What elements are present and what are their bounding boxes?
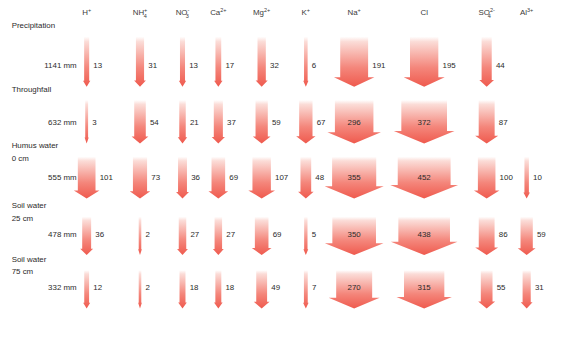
- flux-value-Na-humus-water: 355: [348, 173, 362, 182]
- flux-arrow-SO4-soil-water-75: [478, 270, 495, 308]
- ion-header-SO4: SO2-4: [479, 7, 495, 20]
- flux-arrow-SO4-humus-water: [474, 157, 499, 199]
- flux-value-SO4-precipitation: 44: [496, 61, 505, 70]
- flux-value-H-precipitation: 13: [93, 61, 102, 70]
- layer-name-soil-water-25: Soil water: [12, 201, 47, 210]
- arrow-flows: [74, 37, 536, 309]
- flux-arrow-K-precipitation: [303, 37, 308, 87]
- layer-water-flux-precipitation: 1141 mm: [44, 61, 77, 70]
- flux-arrow-Ca-humus-water: [208, 157, 228, 199]
- ion-header-Mg: Mg2+: [253, 7, 270, 17]
- flux-value-NO3-precipitation: 13: [189, 61, 198, 70]
- flux-arrow-NO3-throughfall: [178, 100, 187, 143]
- flux-arrow-Mg-throughfall: [253, 100, 271, 143]
- flux-value-SO4-soil-water-75: 55: [497, 283, 506, 292]
- flux-value-Mg-precipitation: 32: [270, 61, 279, 70]
- flux-arrow-SO4-soil-water-25: [475, 217, 498, 255]
- flux-value-NH4-soil-water-25: 2: [145, 230, 149, 239]
- flux-value-Ca-humus-water: 69: [229, 173, 238, 182]
- flux-value-Al-soil-water-75: 31: [535, 283, 544, 292]
- flux-value-SO4-humus-water: 100: [500, 173, 514, 182]
- flux-value-Mg-humus-water: 107: [275, 173, 288, 182]
- flux-arrow-K-soil-water-75: [303, 270, 309, 308]
- ion-flux-diagram: H+NH+4NO-3Ca2+Mg2+K+Na+ClSO2-4Al3+Precip…: [0, 0, 570, 351]
- flux-arrow-Al-humus-water: [523, 157, 529, 199]
- flux-arrow-K-soil-water-25: [303, 217, 308, 255]
- flux-value-NH4-soil-water-75: 2: [145, 283, 149, 292]
- flux-arrow-Mg-humus-water: [248, 157, 275, 199]
- flux-value-Cl-soil-water-25: 438: [418, 230, 432, 239]
- flux-value-Cl-precipitation: 195: [442, 61, 456, 70]
- ion-header-H: H+: [82, 7, 91, 17]
- flux-arrow-K-throughfall: [296, 100, 315, 143]
- flux-arrow-NH4-humus-water: [130, 157, 151, 199]
- flux-value-NO3-soil-water-25: 27: [190, 230, 199, 239]
- flux-value-Na-precipitation: 191: [372, 61, 386, 70]
- flux-value-Cl-soil-water-75: 315: [418, 283, 432, 292]
- flux-value-H-humus-water: 101: [100, 173, 114, 182]
- ion-header-Ca: Ca2+: [210, 7, 226, 17]
- flux-arrow-SO4-throughfall: [475, 100, 498, 143]
- flux-value-Na-soil-water-25: 350: [348, 230, 362, 239]
- flux-value-Ca-throughfall: 37: [227, 118, 236, 127]
- flux-arrow-Mg-soil-water-25: [252, 217, 272, 255]
- flux-arrow-NO3-soil-water-25: [177, 217, 188, 255]
- flux-value-Mg-soil-water-25: 69: [273, 230, 282, 239]
- flux-arrow-K-humus-water: [298, 157, 314, 199]
- flux-value-Cl-humus-water: 452: [418, 173, 431, 182]
- flux-value-NH4-throughfall: 54: [150, 118, 159, 127]
- flux-arrow-NH4-soil-water-75: [138, 270, 142, 308]
- flux-value-H-soil-water-25: 36: [95, 230, 104, 239]
- layer-water-flux-throughfall: 632 mm: [48, 118, 77, 127]
- flux-arrow-Na-precipitation: [334, 37, 374, 87]
- layer-name-humus-water: Humus water: [12, 141, 59, 150]
- flux-value-K-soil-water-25: 5: [312, 230, 317, 239]
- flux-value-NH4-precipitation: 31: [148, 61, 157, 70]
- layer-water-flux-soil-water-75: 332 mm: [48, 283, 77, 292]
- flux-value-NO3-soil-water-75: 18: [190, 283, 199, 292]
- flux-value-H-throughfall: 3: [92, 118, 97, 127]
- flux-value-Na-throughfall: 296: [348, 118, 362, 127]
- flux-arrow-NH4-soil-water-25: [138, 217, 142, 255]
- ion-header-NH4: NH+4: [133, 7, 148, 20]
- flux-arrow-Ca-throughfall: [212, 100, 225, 143]
- ion-header-NO3: NO-3: [176, 7, 190, 20]
- layer-name-precipitation: Precipitation: [12, 21, 56, 30]
- flux-value-K-precipitation: 6: [312, 61, 317, 70]
- flux-arrow-H-throughfall: [85, 100, 89, 143]
- flux-value-NO3-throughfall: 21: [190, 118, 199, 127]
- layer-water-flux-humus-water: 555 mm: [48, 173, 77, 182]
- flux-arrow-Al-soil-water-75: [521, 270, 533, 308]
- flux-value-NO3-humus-water: 36: [191, 173, 200, 182]
- flux-diagram-canvas: H+NH+4NO-3Ca2+Mg2+K+Na+ClSO2-4Al3+Precip…: [0, 0, 570, 351]
- ion-header-Na: Na+: [348, 7, 361, 17]
- flux-value-H-soil-water-75: 12: [93, 283, 102, 292]
- flux-value-Al-soil-water-25: 59: [537, 230, 546, 239]
- flux-arrow-Ca-precipitation: [214, 37, 222, 87]
- flux-value-K-humus-water: 48: [315, 173, 324, 182]
- flux-arrow-H-soil-water-25: [80, 217, 93, 255]
- layer-depth-soil-water-25: 25 cm: [12, 214, 34, 223]
- flux-value-Ca-precipitation: 17: [225, 61, 234, 70]
- flux-arrow-NO3-precipitation: [179, 37, 186, 87]
- flux-arrow-Cl-precipitation: [404, 37, 445, 87]
- flux-arrow-Ca-soil-water-75: [214, 270, 223, 308]
- flux-value-SO4-soil-water-25: 86: [499, 230, 508, 239]
- flux-value-SO4-throughfall: 87: [499, 118, 508, 127]
- layer-depth-humus-water: 0 cm: [12, 154, 30, 163]
- flux-value-NH4-humus-water: 73: [151, 173, 160, 182]
- flux-arrow-Mg-soil-water-75: [254, 270, 270, 308]
- flux-value-Mg-soil-water-75: 49: [271, 283, 280, 292]
- flux-arrow-H-humus-water: [74, 157, 100, 199]
- layer-water-flux-soil-water-25: 478 mm: [48, 230, 77, 239]
- flux-arrow-H-soil-water-75: [83, 270, 90, 308]
- flux-value-Cl-throughfall: 372: [418, 118, 431, 127]
- flux-arrow-Ca-soil-water-25: [213, 217, 224, 255]
- layer-name-throughfall: Throughfall: [12, 85, 52, 94]
- flux-arrow-Al-soil-water-25: [518, 217, 536, 255]
- flux-value-Al-humus-water: 10: [533, 173, 542, 182]
- flux-arrow-SO4-precipitation: [479, 37, 494, 87]
- layer-depth-soil-water-75: 75 cm: [12, 267, 34, 276]
- flux-value-Na-soil-water-75: 270: [348, 283, 362, 292]
- flux-arrow-NH4-precipitation: [134, 37, 146, 87]
